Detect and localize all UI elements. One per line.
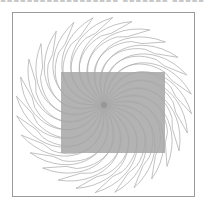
spiral-center <box>101 102 107 108</box>
spiral-figure <box>0 0 208 205</box>
spiral-arms <box>16 17 191 192</box>
